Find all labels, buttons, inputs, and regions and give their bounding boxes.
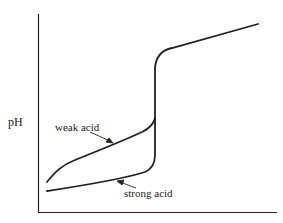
weak-acid-label: weak acid bbox=[55, 122, 99, 133]
weak-acid-arrowhead-icon bbox=[106, 138, 113, 143]
y-axis-label: pH bbox=[8, 116, 23, 128]
strong-acid-arrowhead-icon bbox=[117, 180, 124, 185]
axes bbox=[38, 14, 277, 213]
weak-acid-arrow bbox=[90, 132, 110, 141]
strong-acid-label: strong acid bbox=[124, 188, 173, 199]
weak-acid-curve bbox=[47, 24, 258, 182]
curves bbox=[47, 24, 258, 191]
